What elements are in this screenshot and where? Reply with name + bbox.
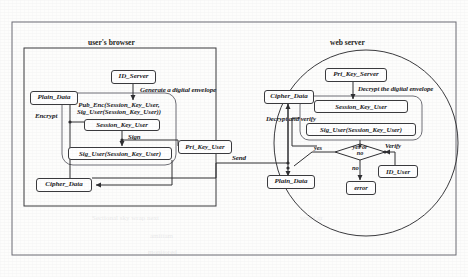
node-cipher-data-server[interactable]: Cipher_Data [264, 90, 314, 104]
node-sig-user-server[interactable]: Sig_User(Session_Key_User) [306, 123, 416, 136]
page-bleed-text-3: amittam [150, 232, 173, 240]
page-bleed-text-4: monitored [148, 248, 177, 256]
label-send: Send [232, 155, 246, 162]
diagram-lines [0, 0, 468, 277]
label-generate-envelope: Generate a digital envelope [140, 87, 216, 94]
label-encrypt: Encrypt [35, 113, 57, 120]
node-error[interactable]: error [346, 181, 376, 195]
node-cipher-data-browser[interactable]: Cipher_Data [36, 178, 92, 192]
decision-line-2: no [341, 150, 379, 156]
node-session-key-user-browser[interactable]: Session_Key_User [84, 119, 160, 131]
node-pri-key-user[interactable]: Pri_Key_User [178, 140, 232, 154]
diagram-canvas: Sectional sky wrap next wand gr amittam … [0, 0, 468, 277]
node-id-server[interactable]: ID_Server [111, 70, 156, 84]
section-title-server: web server [330, 38, 365, 47]
label-decrypt-envelope: Decrypt the digital envelope [358, 85, 433, 92]
page-bleed-text: Sectional sky wrap next [92, 214, 159, 222]
label-sign: Sign [128, 133, 140, 140]
decision-label: yes or no [341, 144, 379, 156]
node-pub-enc-envelope: Pub_Enc(Session_Key_User, Sig_User(Sessi… [66, 98, 172, 118]
label-verify: Verify [385, 142, 401, 149]
page-bleed-text-2: wand gr [300, 214, 323, 222]
node-sig-user-browser[interactable]: Sig_User(Session_Key_User) [68, 147, 172, 160]
node-id-user[interactable]: ID_User [378, 165, 418, 178]
label-no-branch: no [352, 165, 359, 172]
label-yes-branch: yes [314, 145, 322, 152]
node-plain-data-server[interactable]: Plain_Data [267, 175, 315, 189]
section-title-browser: user's browser [88, 38, 135, 47]
pub-enc-line1: Pub_Enc(Session_Key_User, [78, 101, 159, 108]
node-pri-key-server[interactable]: Pri_Key_Server [325, 68, 387, 82]
pub-enc-line2: Sig_User(Session_Key_User)) [77, 108, 161, 115]
node-session-key-user-server[interactable]: Session_Key_User [314, 100, 408, 113]
label-decrypt-and-verify: Decrypt and verify [266, 115, 316, 122]
